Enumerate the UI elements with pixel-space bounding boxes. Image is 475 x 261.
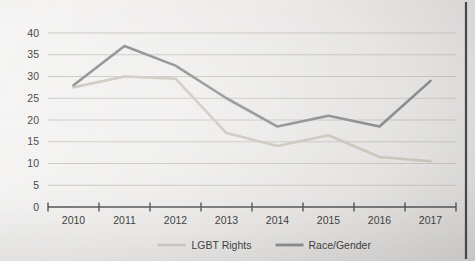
- x-tick-label: 2016: [368, 214, 392, 226]
- y-axis-tick-labels: 0510152025303540: [27, 27, 39, 213]
- series-group: [74, 46, 431, 161]
- x-tick-label: 2010: [62, 214, 86, 226]
- y-tick-label: 35: [27, 48, 39, 60]
- chart-legend: LGBT RightsRace/Gender: [158, 239, 372, 251]
- y-tick-label: 5: [33, 179, 39, 191]
- y-tick-label: 10: [27, 157, 39, 169]
- y-tick-label: 20: [27, 114, 39, 126]
- y-tick-label: 0: [33, 201, 39, 213]
- x-tick-label: 2017: [419, 214, 443, 226]
- legend-label: Race/Gender: [309, 239, 372, 251]
- x-tick-label: 2013: [215, 214, 239, 226]
- y-tick-label: 15: [27, 135, 39, 147]
- x-tick-label: 2014: [266, 214, 290, 226]
- gridlines-group: [48, 33, 456, 185]
- x-tick-label: 2015: [317, 214, 341, 226]
- chart-canvas: 0510152025303540 20102011201220132014201…: [0, 0, 475, 261]
- x-tick-label: 2012: [164, 214, 188, 226]
- line-chart: 0510152025303540 20102011201220132014201…: [0, 0, 475, 261]
- x-tick-label: 2011: [113, 214, 136, 226]
- x-axis: [48, 203, 456, 212]
- legend-label: LGBT Rights: [192, 239, 252, 251]
- y-tick-label: 40: [27, 27, 39, 39]
- y-tick-label: 30: [27, 70, 39, 82]
- x-axis-tick-labels: 20102011201220132014201520162017: [62, 214, 443, 226]
- series-line-race-gender: [74, 46, 431, 126]
- y-tick-label: 25: [27, 92, 39, 104]
- series-line-lgbt-rights: [74, 77, 431, 162]
